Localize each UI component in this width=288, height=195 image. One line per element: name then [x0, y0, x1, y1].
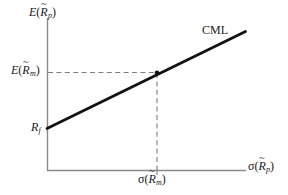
y-axis-label-close-paren: ): [52, 5, 56, 19]
sigma-m-var: R: [148, 173, 155, 185]
y-axis-label: E(Rp): [29, 6, 56, 20]
x-tick-label-market-risk: σ(Rm): [138, 173, 166, 187]
cml-label: CML: [202, 24, 228, 36]
erm-close-paren: ): [36, 63, 40, 77]
x-axis-label: σ(Rp): [248, 160, 274, 174]
sigma-m-close-paren: ): [162, 172, 166, 186]
risk-free-rate-label: Rf: [31, 121, 41, 135]
erm-var: R: [22, 64, 29, 76]
x-axis-label-var: R: [258, 160, 265, 172]
y-axis-label-var: R: [40, 6, 47, 18]
rf-sub: f: [38, 126, 40, 135]
y-tick-label-market-return: E(Rm): [11, 64, 40, 78]
market-portfolio-point: [155, 71, 160, 76]
capital-market-line: [47, 32, 246, 129]
x-axis-label-close-paren: ): [270, 159, 274, 173]
chart-canvas: [0, 0, 288, 195]
cml-figure: E(Rp) E(Rm) Rf CML σ(Rm) σ(Rp): [0, 0, 288, 195]
